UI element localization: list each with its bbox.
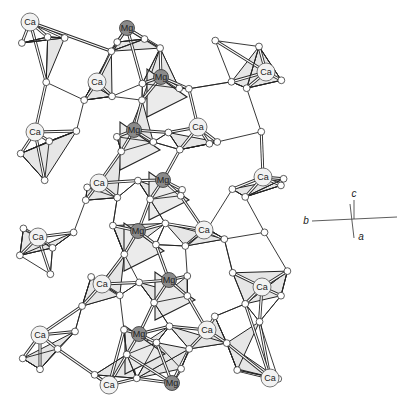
oxygen-atom — [178, 365, 185, 372]
calcium-atom: Ca — [261, 369, 279, 387]
oxygen-atom — [121, 326, 128, 333]
oxygen-atom — [153, 339, 160, 346]
oxygen-atom — [43, 79, 50, 86]
ca-label: Ca — [32, 232, 44, 242]
oxygen-atom — [135, 177, 142, 184]
ca-label: Ca — [260, 67, 272, 77]
magnesium-atom: Mg — [156, 173, 171, 188]
oxygen-atom — [47, 271, 54, 278]
oxygen-atom — [258, 128, 265, 135]
ca-label: Ca — [103, 380, 115, 390]
oxygen-atom — [176, 146, 183, 153]
calcium-atom: Ca — [88, 73, 106, 91]
oxygen-atom — [242, 300, 249, 307]
calcium-atom: Ca — [93, 275, 111, 293]
magnesium-atom: Mg — [165, 376, 180, 391]
calcium-atom: Ca — [100, 376, 118, 394]
edge — [74, 200, 86, 232]
oxygen-atom — [162, 220, 169, 227]
oxygen-atom — [114, 39, 121, 46]
b-axis-line — [312, 217, 397, 221]
oxygen-atom — [70, 229, 77, 236]
oxygen-atom — [16, 252, 23, 259]
edge — [215, 304, 245, 317]
oxygen-atom — [211, 313, 218, 320]
oxygen-atom — [133, 375, 140, 382]
edge — [120, 295, 124, 329]
oxygen-atom — [73, 128, 80, 135]
calcium-atom: Ca — [189, 118, 207, 136]
polyhedron-face — [46, 37, 64, 82]
ca-label: Ca — [201, 325, 213, 335]
oxygen-atom — [84, 184, 91, 191]
oxygen-atom — [61, 35, 68, 42]
oxygen-atom — [82, 197, 89, 204]
oxygen-atom — [18, 40, 25, 47]
oxygen-atom — [278, 77, 285, 84]
magnesium-atom: Mg — [131, 224, 146, 239]
oxygen-atom — [116, 292, 123, 299]
oxygen-atom — [118, 148, 125, 155]
magnesium-atom: Mg — [162, 273, 177, 288]
oxygen-atom — [113, 133, 120, 140]
magnesium-atom: Mg — [132, 327, 147, 342]
oxygen-atom — [206, 140, 213, 147]
oxygen-atom — [136, 279, 143, 286]
ca-label: Ca — [91, 77, 103, 87]
calcium-atom: Ca — [29, 228, 47, 246]
edge — [224, 239, 232, 273]
oxygen-atom — [17, 150, 24, 157]
calcium-atom: Ca — [253, 278, 271, 296]
oxygen-atom — [121, 251, 128, 258]
oxygen-atom — [280, 175, 287, 182]
oxygen-atom — [177, 192, 184, 199]
mg-label: Mg — [155, 72, 168, 82]
ca-label: Ca — [93, 178, 105, 188]
oxygen-atom — [214, 139, 221, 146]
oxygen-atom — [139, 80, 146, 87]
edge — [112, 96, 142, 100]
magnesium-atom: Mg — [127, 123, 142, 138]
calcium-atom: Ca — [198, 321, 216, 339]
oxygen-atom — [261, 229, 268, 236]
ca-label: Ca — [24, 17, 36, 27]
oxygen-atom — [151, 299, 158, 306]
oxygen-atom — [182, 243, 189, 250]
oxygen-atom — [184, 293, 191, 300]
magnesium-atom: Mg — [120, 21, 135, 36]
edge — [113, 198, 117, 226]
oxygen-atom — [91, 371, 98, 378]
mg-label: Mg — [166, 378, 179, 388]
oxygen-atom — [221, 236, 228, 243]
ca-label: Ca — [198, 225, 210, 235]
oxygen-atom — [109, 93, 116, 100]
oxygen-atom — [166, 323, 173, 330]
axis-label-a: a — [358, 231, 364, 242]
oxygen-atom — [229, 186, 236, 193]
oxygen-atom — [54, 346, 61, 353]
edge — [185, 246, 187, 276]
mg-label: Mg — [128, 125, 141, 135]
oxygen-atom — [19, 355, 26, 362]
mg-label: Mg — [157, 175, 170, 185]
oxygen-atom — [88, 274, 95, 281]
oxygen-atom — [44, 34, 51, 41]
oxygen-atom — [153, 241, 160, 248]
oxygen-atom — [223, 340, 230, 347]
oxygen-atom — [242, 194, 249, 201]
edge — [189, 82, 232, 89]
crystal-axis-indicator: c b a — [303, 188, 397, 242]
edge — [50, 248, 52, 274]
mg-label: Mg — [121, 23, 134, 33]
oxygen-atom — [185, 85, 192, 92]
oxygen-atom — [278, 292, 285, 299]
oxygen-atom — [37, 366, 44, 373]
edge — [217, 132, 261, 142]
ca-label: Ca — [29, 127, 41, 137]
a-axis-line — [350, 204, 354, 238]
bond-inner — [58, 349, 109, 385]
oxygen-atom — [20, 225, 27, 232]
oxygen-atom — [165, 129, 172, 136]
ca-label: Ca — [257, 172, 269, 182]
oxygen-atom — [228, 78, 235, 85]
